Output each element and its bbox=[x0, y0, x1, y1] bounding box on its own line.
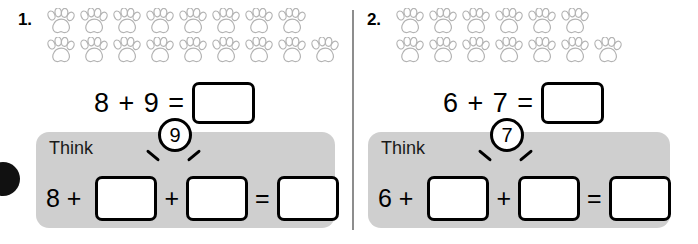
think-lead-text: 6 + bbox=[378, 186, 413, 211]
paw-print-icon bbox=[393, 37, 426, 65]
paw-print-icon bbox=[558, 8, 591, 36]
paw-print-icon bbox=[209, 37, 242, 65]
paw-print-icon bbox=[525, 8, 558, 36]
equation-text: 8 + 9 = bbox=[94, 90, 185, 117]
think-panel: Think 9 8 + + = bbox=[36, 132, 335, 228]
paw-print-icon bbox=[176, 8, 209, 36]
paw-print-icon bbox=[393, 8, 426, 36]
paw-print-icon bbox=[77, 37, 110, 65]
think-blank-3[interactable] bbox=[277, 176, 339, 221]
paw-counter-group-2 bbox=[393, 8, 693, 66]
equation-text: 6 + 7 = bbox=[443, 90, 534, 117]
paw-row bbox=[393, 8, 693, 37]
think-blank-1[interactable] bbox=[95, 176, 157, 221]
think-blank-2[interactable] bbox=[518, 176, 580, 221]
paw-print-icon bbox=[426, 37, 459, 65]
branch-leg-right bbox=[519, 149, 533, 162]
problem-2: 2. 6 + 7 = Think 7 6 + + = bbox=[349, 0, 698, 244]
paw-print-icon bbox=[459, 37, 492, 65]
paw-print-icon bbox=[44, 8, 77, 36]
problem-1: 1. 8 + 9 = Think 9 8 + + = bbox=[0, 0, 349, 244]
equals-sign: = bbox=[248, 186, 277, 211]
think-lead-text: 8 + bbox=[46, 186, 81, 211]
paw-print-icon bbox=[426, 8, 459, 36]
think-label: Think bbox=[381, 139, 425, 157]
branch-leg-left bbox=[478, 149, 492, 162]
plus-sign: + bbox=[157, 186, 186, 211]
branch-leg-left bbox=[146, 149, 160, 162]
paw-print-icon bbox=[110, 37, 143, 65]
think-blank-1[interactable] bbox=[427, 176, 489, 221]
paw-print-icon bbox=[525, 37, 558, 65]
circled-helper-number: 9 bbox=[158, 118, 192, 152]
paw-print-icon bbox=[242, 8, 275, 36]
problem-number: 2. bbox=[367, 11, 381, 28]
equals-sign: = bbox=[580, 186, 609, 211]
think-blank-3[interactable] bbox=[609, 176, 671, 221]
paw-print-icon bbox=[591, 37, 624, 65]
think-blank-2[interactable] bbox=[186, 176, 248, 221]
paw-print-icon bbox=[275, 37, 308, 65]
paw-counter-group-1 bbox=[44, 8, 344, 66]
paw-row bbox=[44, 37, 344, 66]
plus-sign: + bbox=[489, 186, 518, 211]
paw-print-icon bbox=[492, 8, 525, 36]
paw-print-icon bbox=[242, 37, 275, 65]
think-number-sentence: 6 + + = bbox=[378, 176, 680, 221]
paw-print-icon bbox=[209, 8, 242, 36]
equation-line: 6 + 7 = bbox=[349, 82, 698, 124]
paw-print-icon bbox=[44, 37, 77, 65]
paw-row bbox=[44, 8, 344, 37]
paw-print-icon bbox=[558, 37, 591, 65]
answer-box[interactable] bbox=[192, 82, 255, 124]
paw-print-icon bbox=[459, 8, 492, 36]
paw-print-icon bbox=[308, 37, 341, 65]
answer-box[interactable] bbox=[541, 82, 604, 124]
think-label: Think bbox=[49, 139, 93, 157]
paw-print-icon bbox=[143, 8, 176, 36]
paw-print-icon bbox=[110, 8, 143, 36]
think-panel: Think 7 6 + + = bbox=[368, 132, 670, 228]
branch-leg-right bbox=[187, 149, 201, 162]
paw-print-icon bbox=[275, 8, 308, 36]
think-number-sentence: 8 + + = bbox=[46, 176, 345, 221]
circled-helper-number: 7 bbox=[490, 118, 524, 152]
paw-print-icon bbox=[492, 37, 525, 65]
paw-print-icon bbox=[176, 37, 209, 65]
worksheet-page: 1. 8 + 9 = Think 9 8 + + = bbox=[0, 0, 698, 244]
paw-row bbox=[393, 37, 693, 66]
paw-print-icon bbox=[77, 8, 110, 36]
problem-number: 1. bbox=[18, 11, 32, 28]
paw-print-icon bbox=[143, 37, 176, 65]
